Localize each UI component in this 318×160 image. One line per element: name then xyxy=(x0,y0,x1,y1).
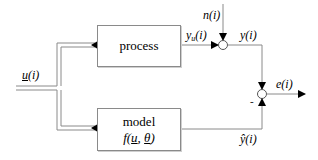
input-double-line xyxy=(16,43,95,130)
noise-arg: (i) xyxy=(209,8,220,22)
process-label: process xyxy=(120,38,159,54)
model-func-prefix: f( xyxy=(123,130,131,145)
y-wire xyxy=(228,45,263,89)
model-function: f(u, θ) xyxy=(123,130,155,146)
model-label: model xyxy=(123,114,156,130)
y-arg: (i) xyxy=(245,28,256,42)
minus-sign: - xyxy=(250,95,254,107)
noise-label: n(i) xyxy=(203,8,220,23)
process-output-label: yu(i) xyxy=(186,28,207,43)
sum-junction-2 xyxy=(258,90,267,99)
yu-arg: (i) xyxy=(195,28,206,42)
model-block: model f(u, θ) xyxy=(97,108,181,151)
input-signal-label: u(i) xyxy=(22,68,39,83)
e-arg: (i) xyxy=(281,77,292,91)
process-block: process xyxy=(97,25,181,67)
sum-junction-1 xyxy=(219,41,228,50)
input-arg: (i) xyxy=(28,68,39,82)
error-label: e(i) xyxy=(276,77,293,92)
model-output-label: ŷ(i) xyxy=(240,132,257,147)
yhat-arg: (i) xyxy=(245,132,256,146)
model-func-suffix: ) xyxy=(151,130,155,145)
measured-output-label: y(i) xyxy=(240,28,257,43)
